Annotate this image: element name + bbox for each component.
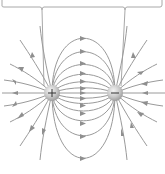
arrow-icons-center xyxy=(80,36,86,161)
field-lines-upper xyxy=(52,38,115,93)
positive-charge xyxy=(44,85,60,101)
dipole-field-diagram: Electric field lines of a dipole xyxy=(0,0,165,174)
field-lines-lower xyxy=(52,93,115,158)
field-lines-canvas xyxy=(0,0,165,174)
negative-charge xyxy=(107,85,123,101)
